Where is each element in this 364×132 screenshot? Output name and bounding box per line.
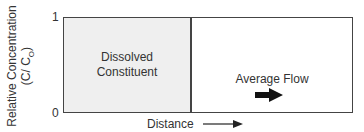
y-axis-label-line2: (C/ CO) xyxy=(19,5,38,126)
distance-arrow-icon xyxy=(203,119,245,129)
y-tick-1: 1 xyxy=(52,11,59,23)
y-axis-label: Relative Concentration (C/ CO) xyxy=(0,0,44,132)
dissolved-constituent-label: Dissolved Constituent xyxy=(63,50,191,80)
x-axis-label: Distance xyxy=(147,117,194,131)
y-axis-label-line1: Relative Concentration xyxy=(5,5,19,126)
average-flow-label: Average Flow xyxy=(191,72,353,87)
flow-arrow-icon xyxy=(255,88,285,102)
y-tick-0: 0 xyxy=(52,107,59,119)
